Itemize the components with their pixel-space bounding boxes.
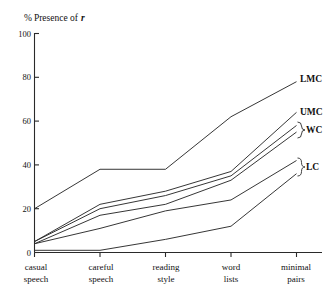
x-label-casual-speech-line1: casual <box>25 262 48 272</box>
y-tick-label-0: 0 <box>27 248 31 258</box>
y-tick-label-100: 100 <box>18 29 31 39</box>
x-label-reading-style-line1: reading <box>153 262 180 272</box>
series-line-lmc <box>35 82 297 209</box>
series-line-wc-upper <box>35 125 297 241</box>
chart-svg: %Presence ofr 0 20 40 60 80 100 <box>0 0 329 299</box>
x-label-careful-speech-line2: speech <box>89 274 114 284</box>
x-label-minimal-pairs-line1: minimal <box>281 262 311 272</box>
series-annotations: LMC UMC WC LC <box>298 74 323 176</box>
x-label-word-lists-line1: word <box>222 262 241 272</box>
chart-series-group <box>35 82 297 251</box>
percent-symbol: % <box>24 13 32 23</box>
y-tick-label-40: 40 <box>23 160 32 170</box>
brace-lc-icon <box>298 158 306 176</box>
x-axis-ticks <box>35 253 297 258</box>
series-line-lc-upper <box>35 161 297 244</box>
x-label-reading-style-line2: style <box>158 274 175 284</box>
series-label-lc: LC <box>306 162 319 172</box>
x-label-careful-speech-line1: careful <box>89 262 114 272</box>
x-label-word-lists-line2: lists <box>224 274 239 284</box>
y-axis-ticks <box>35 34 40 253</box>
series-label-wc: WC <box>306 125 323 135</box>
series-label-umc: UMC <box>300 107 323 117</box>
y-axis-labels: 0 20 40 60 80 100 <box>18 29 31 258</box>
x-label-casual-speech-line2: speech <box>24 274 49 284</box>
axis-title-text: Presence of <box>34 13 79 23</box>
series-line-wc-lower <box>35 132 297 244</box>
y-tick-label-80: 80 <box>23 72 32 82</box>
series-label-lmc: LMC <box>300 74 322 84</box>
y-tick-label-20: 20 <box>23 204 32 214</box>
brace-wc-icon <box>298 122 306 138</box>
x-axis-labels: casual speech careful speech reading sty… <box>24 262 312 284</box>
chart-figure: %Presence ofr 0 20 40 60 80 100 <box>0 0 329 299</box>
y-tick-label-60: 60 <box>23 116 32 126</box>
chart-axis-title: %Presence ofr <box>24 13 85 23</box>
axis-title-variable: r <box>81 13 85 23</box>
x-label-minimal-pairs-line2: pairs <box>287 274 305 284</box>
